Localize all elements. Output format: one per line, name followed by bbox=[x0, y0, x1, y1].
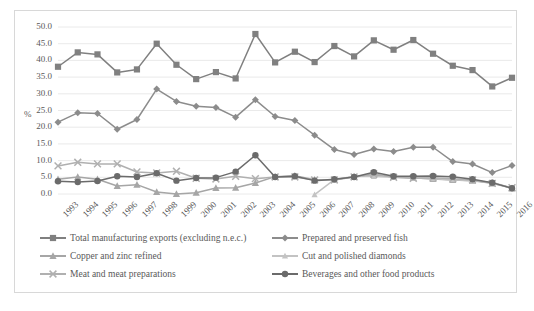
legend-marker-icon bbox=[40, 232, 66, 244]
data-point bbox=[450, 63, 456, 69]
y-tick-label: 20.0 bbox=[22, 122, 52, 131]
data-point bbox=[509, 162, 516, 169]
gridlines bbox=[58, 27, 512, 194]
y-tick-label: 35.0 bbox=[22, 72, 52, 81]
legend-item[interactable]: Total manufacturing exports (excluding n… bbox=[40, 229, 246, 247]
legend-label: Copper and zinc refined bbox=[70, 251, 162, 261]
data-point bbox=[252, 152, 258, 158]
data-point bbox=[114, 69, 120, 75]
data-point bbox=[469, 176, 475, 182]
legend-label: Prepared and preserved fish bbox=[302, 233, 408, 243]
legend-marker-icon bbox=[40, 268, 66, 280]
data-point bbox=[390, 47, 396, 53]
legend-item[interactable]: Copper and zinc refined bbox=[40, 247, 162, 265]
data-point bbox=[134, 174, 140, 180]
legend-label: Beverages and other food products bbox=[302, 269, 434, 279]
y-tick-label: 45.0 bbox=[22, 39, 52, 48]
data-point bbox=[134, 66, 140, 72]
data-point bbox=[371, 169, 377, 175]
legend-label: Meat and meat preparations bbox=[70, 269, 176, 279]
data-point bbox=[450, 173, 456, 179]
data-point bbox=[75, 49, 81, 55]
data-point bbox=[193, 175, 199, 181]
data-point bbox=[153, 170, 159, 176]
series-line bbox=[54, 171, 515, 197]
data-point bbox=[430, 173, 436, 179]
data-point bbox=[331, 43, 337, 49]
data-point bbox=[272, 174, 278, 180]
legend-item[interactable]: Prepared and preserved fish bbox=[272, 229, 408, 247]
legend-item[interactable]: Cut and polished diamonds bbox=[272, 247, 406, 265]
data-point bbox=[173, 177, 179, 183]
data-point bbox=[55, 64, 61, 70]
y-tick-label: 10.0 bbox=[22, 156, 52, 165]
data-point bbox=[292, 49, 298, 55]
y-tick-label: 50.0 bbox=[22, 22, 52, 31]
legend-item[interactable]: Beverages and other food products bbox=[272, 265, 434, 283]
data-point bbox=[410, 144, 417, 151]
data-point bbox=[213, 174, 219, 180]
data-point bbox=[312, 59, 318, 65]
data-point bbox=[212, 104, 219, 111]
legend-marker-icon bbox=[40, 250, 66, 262]
legend-item[interactable]: Meat and meat preparations bbox=[40, 265, 176, 283]
data-point bbox=[430, 51, 436, 57]
series-line bbox=[55, 86, 516, 176]
data-point bbox=[94, 51, 100, 57]
data-point bbox=[489, 83, 495, 89]
data-point bbox=[351, 151, 358, 158]
legend-marker-icon bbox=[272, 250, 298, 262]
legend-marker-icon bbox=[272, 268, 298, 280]
data-point bbox=[469, 160, 476, 167]
data-point bbox=[193, 103, 200, 110]
data-point bbox=[94, 178, 100, 184]
data-point bbox=[114, 173, 120, 179]
data-point bbox=[489, 179, 495, 185]
data-point bbox=[370, 145, 377, 152]
data-point bbox=[193, 76, 199, 82]
data-point bbox=[55, 178, 61, 184]
data-point bbox=[509, 185, 515, 191]
y-tick-label: 5.0 bbox=[22, 172, 52, 181]
data-point bbox=[509, 75, 515, 81]
data-point bbox=[292, 173, 298, 179]
data-point bbox=[75, 179, 81, 185]
y-tick-label: 0.0 bbox=[22, 189, 52, 198]
data-point bbox=[232, 168, 238, 174]
data-point bbox=[390, 173, 396, 179]
data-point bbox=[331, 176, 337, 182]
legend-label: Cut and polished diamonds bbox=[302, 251, 406, 261]
data-point bbox=[252, 31, 258, 37]
data-point bbox=[55, 119, 62, 126]
data-point bbox=[469, 67, 475, 73]
y-tick-label: 25.0 bbox=[22, 106, 52, 115]
legend-marker-icon bbox=[272, 232, 298, 244]
data-point bbox=[173, 62, 179, 68]
data-point bbox=[311, 177, 317, 183]
data-point bbox=[410, 37, 416, 43]
data-point bbox=[390, 148, 397, 155]
y-tick-label: 30.0 bbox=[22, 89, 52, 98]
data-point bbox=[410, 173, 416, 179]
data-point bbox=[351, 53, 357, 59]
legend-label: Total manufacturing exports (excluding n… bbox=[70, 233, 246, 243]
data-point bbox=[489, 169, 496, 176]
data-point bbox=[351, 174, 357, 180]
data-point bbox=[233, 75, 239, 81]
data-point bbox=[154, 41, 160, 47]
y-tick-label: 40.0 bbox=[22, 55, 52, 64]
y-tick-label: 15.0 bbox=[22, 139, 52, 148]
data-point bbox=[213, 69, 219, 75]
chart-legend: Total manufacturing exports (excluding n… bbox=[40, 229, 500, 287]
data-point bbox=[272, 59, 278, 65]
data-point bbox=[371, 37, 377, 43]
data-point bbox=[173, 98, 180, 105]
